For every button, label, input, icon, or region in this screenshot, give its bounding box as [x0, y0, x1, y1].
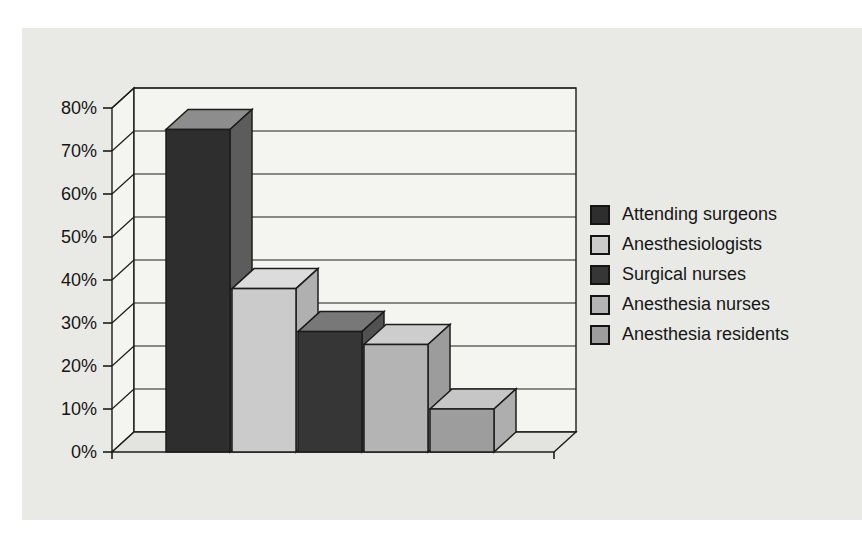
y-axis-label-70: 70%	[61, 141, 97, 161]
figure-screenshot: 0%10%20%30%40%50%60%70%80% Attending sur…	[0, 0, 862, 546]
bar-front-anesthesia-nurses	[364, 345, 428, 453]
legend-swatch	[590, 235, 610, 255]
bar-front-anesthesiologists	[232, 289, 296, 452]
y-axis-label-0: 0%	[71, 442, 97, 462]
legend-label: Attending surgeons	[622, 204, 777, 225]
bar-front-anesthesia-residents	[430, 409, 494, 452]
legend-swatch	[590, 295, 610, 315]
legend-item-anesthesia-nurses: Anesthesia nurses	[590, 294, 789, 315]
legend-swatch	[590, 325, 610, 345]
y-axis-label-60: 60%	[61, 184, 97, 204]
y-axis-label-40: 40%	[61, 270, 97, 290]
legend-item-surgical-nurses: Surgical nurses	[590, 264, 789, 285]
bar-front-surgical-nurses	[298, 332, 362, 452]
legend-label: Surgical nurses	[622, 264, 746, 285]
y-axis-label-80: 80%	[61, 98, 97, 118]
legend-label: Anesthesiologists	[622, 234, 762, 255]
y-axis-label-50: 50%	[61, 227, 97, 247]
y-axis-label-10: 10%	[61, 399, 97, 419]
legend-item-attending-surgeons: Attending surgeons	[590, 204, 789, 225]
chart-legend: Attending surgeonsAnesthesiologistsSurgi…	[590, 204, 789, 354]
y-axis-label-30: 30%	[61, 313, 97, 333]
legend-item-anesthesia-residents: Anesthesia residents	[590, 324, 789, 345]
legend-item-anesthesiologists: Anesthesiologists	[590, 234, 789, 255]
legend-label: Anesthesia residents	[622, 324, 789, 345]
bar-front-attending-surgeons	[166, 130, 230, 453]
legend-swatch	[590, 265, 610, 285]
y-axis-label-20: 20%	[61, 356, 97, 376]
legend-swatch	[590, 205, 610, 225]
legend-label: Anesthesia nurses	[622, 294, 770, 315]
